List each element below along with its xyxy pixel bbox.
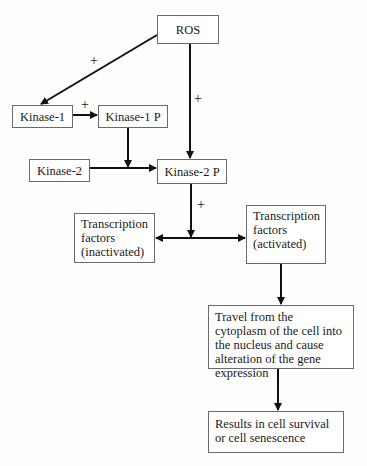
node-kinase-1-label: Kinase-1 [20, 110, 65, 124]
node-kinase-2-label: Kinase-2 [37, 164, 82, 178]
node-results-label: Results in cell survival or cell senesce… [215, 417, 329, 445]
node-kinase-1: Kinase-1 [12, 105, 73, 128]
node-tf-inactivated: Transcription factors (inactivated) [74, 213, 155, 263]
edge-label-kinase1-kinase1p: + [81, 97, 89, 113]
node-kinase-1p-label: Kinase-1 P [105, 110, 160, 124]
node-ros: ROS [157, 15, 219, 44]
node-tf-inactivated-label: Transcription factors (inactivated) [81, 217, 148, 259]
node-kinase-1p: Kinase-1 P [98, 105, 168, 128]
edge-label-ros-kinase2p: + [194, 91, 202, 107]
signaling-pathway-diagram: ROS Kinase-1 Kinase-1 P Kinase-2 Kinase-… [0, 0, 367, 466]
node-kinase-2p-label: Kinase-2 P [164, 165, 219, 179]
edge-label-ros-kinase1: + [90, 53, 98, 69]
node-ros-label: ROS [176, 23, 200, 37]
node-kinase-2: Kinase-2 [29, 159, 90, 182]
node-results: Results in cell survival or cell senesce… [208, 411, 344, 453]
node-tf-activated: Transcription factors (activated) [246, 205, 326, 264]
node-travel-nucleus: Travel from the cytoplasm of the cell in… [208, 305, 354, 369]
node-kinase-2p: Kinase-2 P [157, 159, 227, 184]
edge-label-kinase2p-tf: + [197, 197, 205, 213]
node-tf-activated-label: Transcription factors (activated) [253, 209, 320, 251]
